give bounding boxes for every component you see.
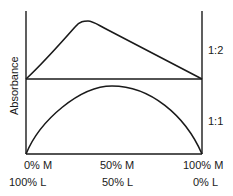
x-tick-100-line1: 100% M [183, 160, 223, 171]
x-tick-100-line2: 0% L [193, 177, 218, 188]
y-axis-label: Absorbance [8, 56, 20, 115]
curve-1-1 [26, 86, 202, 154]
x-tick-0-line1: 0% M [24, 160, 52, 171]
ratio-label-1-1: 1:1 [208, 116, 223, 127]
ratio-label-1-2: 1:2 [208, 45, 223, 56]
x-tick-50-line2: 50% L [102, 177, 133, 188]
curve-1-2 [26, 21, 202, 79]
x-tick-50-line1: 50% M [100, 160, 134, 171]
x-tick-0-line2: 100% L [9, 177, 46, 188]
